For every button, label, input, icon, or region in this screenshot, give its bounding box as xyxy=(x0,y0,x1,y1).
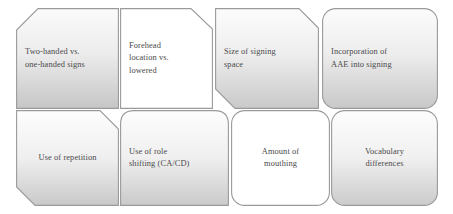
diagram-node-vocabulary-differences[interactable]: Vocabulary differences xyxy=(331,110,438,206)
node-label: Vocabulary differences xyxy=(331,146,438,170)
diagram-node-use-of-repetition[interactable]: Use of repetition xyxy=(16,110,119,206)
node-label: Incorporation of AAE into signing xyxy=(322,46,438,70)
node-label: Two-handed vs. one-handed signs xyxy=(16,46,119,70)
diagram-node-size-of-signing-space[interactable]: Size of signing space xyxy=(215,8,319,109)
node-label: Use of role shifting (CA/CD) xyxy=(120,146,229,170)
node-label: Amount of mouthing xyxy=(231,146,330,170)
diagram-node-incorporation-of-aae-into-signing[interactable]: Incorporation of AAE into signing xyxy=(322,8,438,109)
diagram-node-amount-of-mouthing[interactable]: Amount of mouthing xyxy=(231,110,330,206)
diagram-node-two-handed-vs-one-handed-signs[interactable]: Two-handed vs. one-handed signs xyxy=(16,8,119,109)
diagram-node-forehead-location-vs-lowered[interactable]: Forehead location vs. lowered xyxy=(120,8,213,109)
diagram-canvas: Two-handed vs. one-handed signs Forehead… xyxy=(0,0,453,214)
node-label: Size of signing space xyxy=(215,46,319,70)
node-label: Forehead location vs. lowered xyxy=(120,40,213,77)
diagram-node-use-of-role-shifting[interactable]: Use of role shifting (CA/CD) xyxy=(120,110,229,206)
node-label: Use of repetition xyxy=(16,152,119,164)
